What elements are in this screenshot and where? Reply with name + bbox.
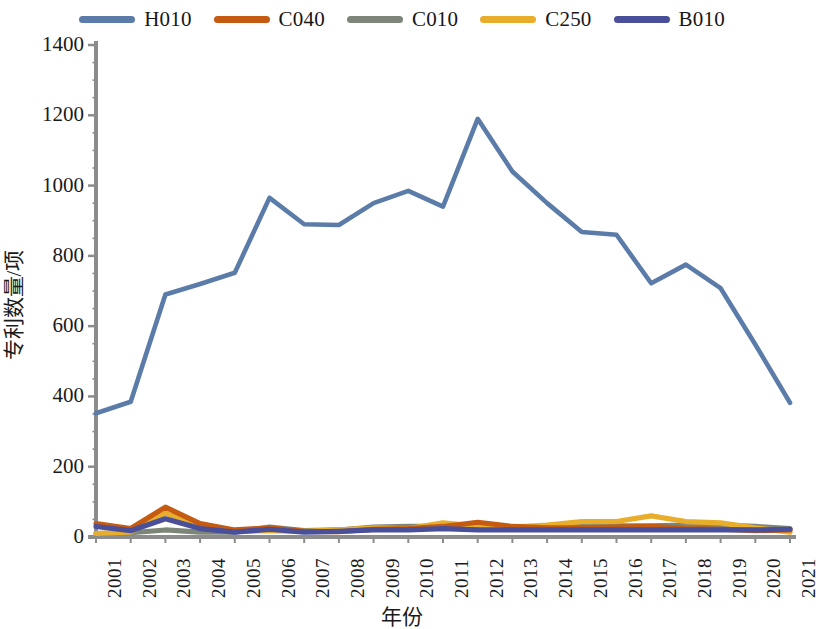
x-axis-title: 年份 [0,600,804,629]
x-tick-label: 2009 [382,558,404,598]
y-axis-title: 专利数量/项 [0,230,27,380]
x-tick-label: 2016 [625,558,647,598]
x-tick-label: 2020 [763,558,785,598]
series-line-h010 [96,119,790,414]
x-tick-label: 2011 [451,559,473,598]
x-tick-label: 2008 [347,558,369,598]
x-tick-label: 2014 [555,558,577,598]
x-tick-label: 2017 [659,558,681,598]
x-tick-label: 2021 [798,558,820,598]
x-tick-label: 2003 [173,558,195,598]
x-tick-label: 2015 [590,558,612,598]
x-tick-label: 2007 [312,558,334,598]
x-tick-label: 2006 [278,558,300,598]
x-tick-label: 2001 [104,558,126,598]
y-tick-label: 1400 [10,34,84,55]
x-tick-label: 2018 [694,558,716,598]
y-tick-label: 400 [10,385,84,406]
x-tick-label: 2005 [243,558,265,598]
y-tick-label: 1200 [10,104,84,125]
y-tick-label: 200 [10,456,84,477]
x-tick-label: 2019 [729,558,751,598]
x-tick-label: 2012 [486,558,508,598]
y-tick-label: 1000 [10,175,84,196]
x-tick-label: 2002 [139,558,161,598]
x-tick-label: 2010 [416,558,438,598]
x-tick-label: 2004 [208,558,230,598]
x-tick-label: 2013 [520,558,542,598]
